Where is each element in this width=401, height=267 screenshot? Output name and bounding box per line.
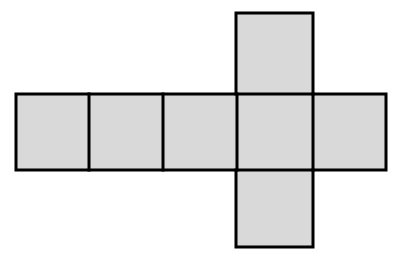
cube-net-diagram (0, 0, 401, 267)
cube-net-figure (0, 0, 401, 267)
face-center-fill (237, 94, 313, 170)
face-bottom-fill (236, 170, 313, 247)
face-left-1-fill (16, 94, 89, 170)
face-right-fill (313, 94, 386, 170)
face-left-3-fill (163, 94, 237, 170)
face-left-2-fill (89, 94, 163, 170)
face-top-fill (236, 13, 313, 94)
